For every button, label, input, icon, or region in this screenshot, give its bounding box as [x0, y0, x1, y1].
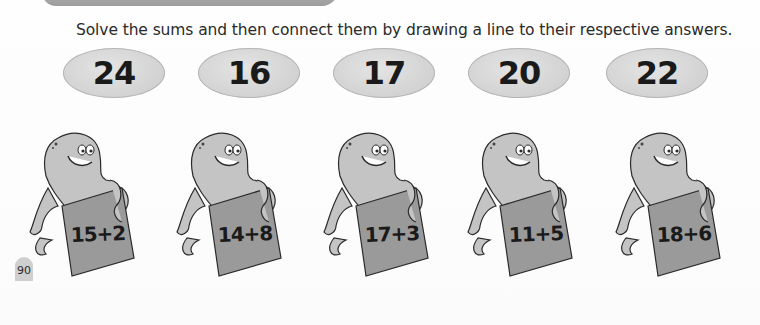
worksheet-page: Solve the sums and then connect them by …: [0, 0, 760, 325]
answer-oval-22[interactable]: 22: [606, 48, 708, 98]
octopus-icon: [466, 128, 596, 288]
answer-row: 24 16 17 20 22: [0, 48, 760, 104]
sum-expression: 11+5: [496, 221, 577, 248]
answer-oval-16[interactable]: 16: [198, 48, 300, 98]
sum-expression: 15+2: [58, 221, 139, 248]
sum-card-5[interactable]: 18+6: [614, 128, 744, 288]
instruction-text: Solve the sums and then connect them by …: [76, 21, 756, 39]
sum-expression: 14+8: [205, 221, 286, 248]
answer-oval-20[interactable]: 20: [468, 48, 570, 98]
octopus-icon: [614, 128, 744, 288]
answer-oval-24[interactable]: 24: [63, 48, 165, 98]
octopus-icon: [28, 128, 158, 288]
sum-card-4[interactable]: 11+5: [466, 128, 596, 288]
sum-expression: 18+6: [644, 221, 725, 248]
answer-oval-17[interactable]: 17: [333, 48, 435, 98]
octopus-icon: [322, 128, 452, 288]
octopus-icon: [175, 128, 305, 288]
sum-expression: 17+3: [352, 221, 433, 248]
page-number: 90: [15, 257, 33, 281]
sum-card-1[interactable]: 15+2: [28, 128, 158, 288]
sum-card-2[interactable]: 14+8: [175, 128, 305, 288]
header-banner: [42, 0, 338, 6]
sum-card-3[interactable]: 17+3: [322, 128, 452, 288]
